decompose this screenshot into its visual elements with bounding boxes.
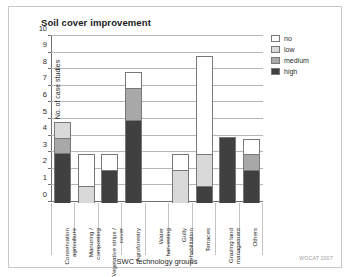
bar-segment-no[interactable] (78, 154, 95, 187)
x-label-slot: Terraces (193, 203, 216, 255)
stacked-bar[interactable] (196, 53, 213, 202)
bar-slot (51, 36, 75, 202)
bar-segment-low[interactable] (78, 186, 95, 203)
x-label-slot: Gully rehabilitation (169, 203, 192, 255)
legend-swatch-icon (271, 46, 280, 53)
stacked-bar[interactable] (101, 152, 118, 202)
bar-slot (98, 36, 122, 202)
legend-label: no (284, 35, 292, 42)
bar-segment-medium[interactable] (243, 154, 260, 171)
stacked-bar[interactable] (243, 136, 260, 202)
bar-slot (240, 36, 264, 202)
chart-figure: Soil cover improvement 012345678910 No. … (8, 6, 342, 268)
legend-item-low[interactable]: low (271, 44, 335, 55)
bar-segment-medium[interactable] (125, 88, 142, 121)
x-axis-tick-labels: Conservation agricultureManuring / compo… (51, 203, 263, 255)
x-label-slot: Others (240, 203, 263, 255)
x-tick-label: Agroforestry (134, 228, 141, 277)
bar-segment-low[interactable] (172, 170, 189, 203)
bar-segment-no[interactable] (101, 154, 118, 171)
legend-swatch-icon (271, 68, 280, 75)
stacked-bar[interactable] (78, 152, 95, 202)
legend-label: medium (284, 57, 309, 64)
legend-swatch-icon (271, 35, 280, 42)
x-label-slot: Conservation agriculture (51, 203, 75, 255)
plot-area: 012345678910 No. of case studies (51, 36, 263, 202)
bar-segment-high[interactable] (101, 170, 118, 203)
stacked-bar[interactable] (219, 136, 236, 202)
y-tick-label: 9 (43, 40, 47, 49)
x-label-slot: Agroforestry (122, 203, 145, 255)
bar-segment-high[interactable] (125, 120, 142, 203)
x-label-slot: Grazing land management (216, 203, 239, 255)
stacked-bar[interactable] (54, 119, 71, 202)
chart-legend: nolowmediumhigh (271, 33, 335, 77)
bar-segment-medium[interactable] (54, 138, 71, 155)
bar-slot (122, 36, 146, 202)
bar-slot (75, 36, 99, 202)
x-axis-title: SWC technology groups (51, 257, 263, 266)
y-tick-label: 7 (43, 73, 47, 82)
y-tick-label: 2 (43, 156, 47, 165)
y-tick-label: 6 (43, 89, 47, 98)
y-tick-label: 4 (43, 123, 47, 132)
legend-item-high[interactable]: high (271, 66, 335, 77)
bar-segment-high[interactable] (243, 170, 260, 203)
y-tick-label: 1 (43, 172, 47, 181)
x-tick-label: Terraces (204, 228, 211, 277)
legend-item-medium[interactable]: medium (271, 55, 335, 66)
bar-segment-high[interactable] (196, 186, 213, 203)
bar-slot (169, 36, 193, 202)
bar-segment-low[interactable] (196, 154, 213, 187)
x-label-slot: Manuring / composting (75, 203, 98, 255)
bar-slot (192, 36, 216, 202)
stacked-bar[interactable] (172, 152, 189, 202)
x-label-slot: Water harvesting (146, 203, 169, 255)
bar-series-group (51, 36, 263, 202)
bar-segment-no[interactable] (125, 72, 142, 89)
y-tick-label: 0 (43, 189, 47, 198)
source-credit: WOCAT 2007 (299, 255, 333, 261)
bar-slot (145, 36, 169, 202)
y-tick-label: 5 (43, 106, 47, 115)
bar-segment-no[interactable] (172, 154, 189, 171)
y-tick-label: 3 (43, 139, 47, 148)
legend-item-no[interactable]: no (271, 33, 335, 44)
bar-slot (216, 36, 240, 202)
y-tick-label: 10 (39, 23, 47, 32)
legend-label: high (284, 68, 297, 75)
y-tick-label: 8 (43, 56, 47, 65)
bar-segment-no[interactable] (243, 139, 260, 156)
legend-swatch-icon (271, 57, 280, 64)
bar-segment-no[interactable] (196, 56, 213, 156)
x-label-slot: Vegetative strips / cover (99, 203, 122, 255)
chart-title: Soil cover improvement (41, 17, 151, 28)
stacked-bar[interactable] (125, 69, 142, 202)
legend-label: low (284, 46, 295, 53)
bar-segment-high[interactable] (54, 153, 71, 203)
bar-segment-high[interactable] (219, 137, 236, 203)
bar-segment-low[interactable] (54, 122, 71, 139)
x-tick-label: Others (251, 228, 258, 277)
